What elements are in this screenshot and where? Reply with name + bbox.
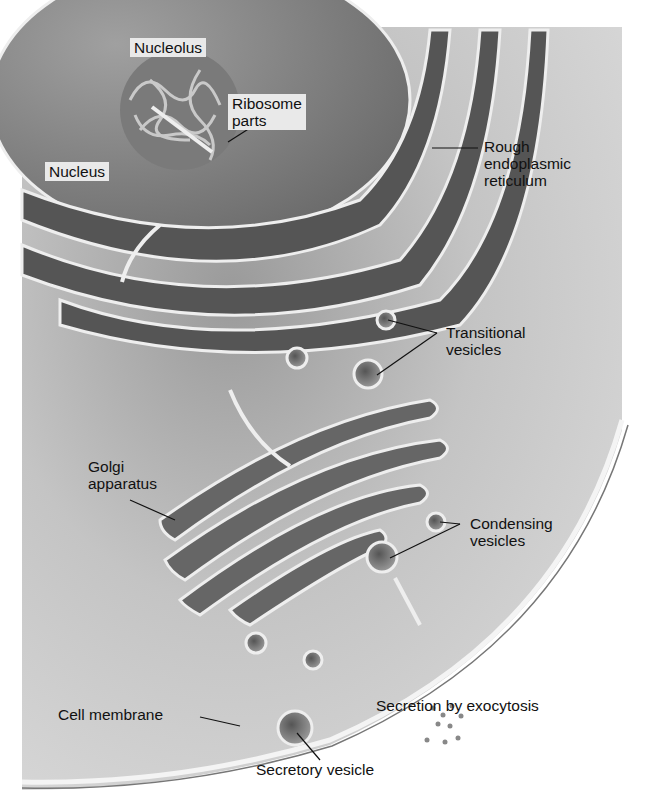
label-ribosome-parts: Ribosome parts bbox=[228, 94, 306, 130]
transitional-vesicle bbox=[377, 311, 395, 329]
label-condensing-vesicles: Condensing vesicles bbox=[470, 515, 553, 549]
label-nucleolus: Nucleolus bbox=[130, 38, 206, 57]
label-transitional-vesicles: Transitional vesicles bbox=[446, 324, 526, 358]
label-secretion-exocytosis: Secretion by exocytosis bbox=[376, 697, 539, 714]
label-nucleus: Nucleus bbox=[45, 162, 109, 181]
label-line: endoplasmic bbox=[484, 155, 571, 172]
label-line: Golgi bbox=[88, 458, 157, 475]
cell-secretion-diagram bbox=[0, 0, 645, 803]
label-line: vesicles bbox=[470, 532, 553, 549]
label-rough-er: Rough endoplasmic reticulum bbox=[484, 138, 571, 189]
secretory-vesicle bbox=[278, 711, 312, 745]
label-line: Transitional bbox=[446, 324, 526, 341]
label-line: apparatus bbox=[88, 475, 157, 492]
label-line: parts bbox=[232, 112, 302, 129]
label-cell-membrane: Cell membrane bbox=[58, 706, 163, 723]
label-golgi: Golgi apparatus bbox=[88, 458, 157, 492]
label-line: Ribosome bbox=[232, 95, 302, 112]
label-line: Rough bbox=[484, 138, 571, 155]
nucleolus bbox=[120, 50, 240, 170]
label-secretory-vesicle: Secretory vesicle bbox=[256, 761, 374, 778]
label-line: Condensing bbox=[470, 515, 553, 532]
label-line: reticulum bbox=[484, 172, 571, 189]
label-line: vesicles bbox=[446, 341, 526, 358]
